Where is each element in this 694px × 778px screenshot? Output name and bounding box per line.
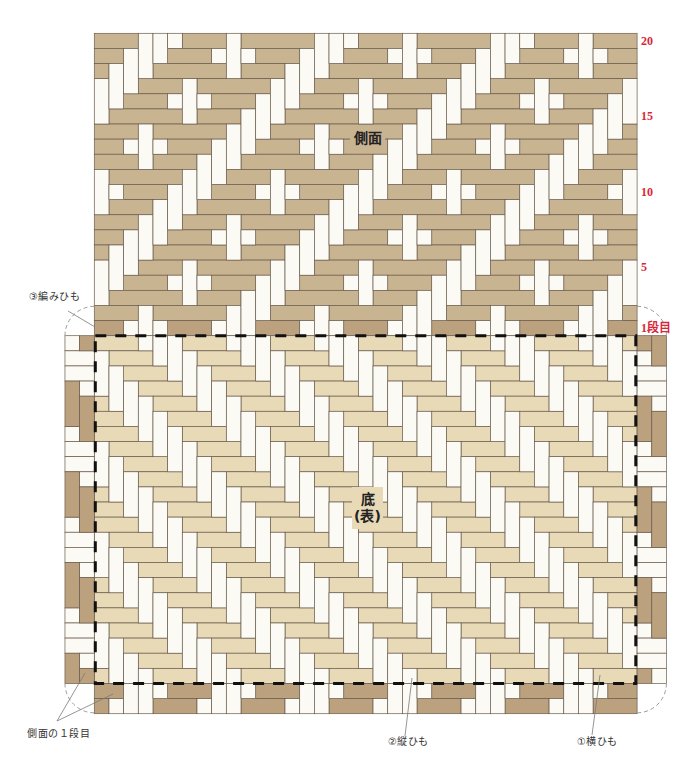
weaving-strip-segment: [476, 185, 520, 200]
left-ext-weaving-strip: [80, 578, 95, 623]
horizontal-strip-segment: [593, 487, 637, 502]
bottom-ext-weaving-strip: [344, 683, 388, 698]
bottom-ext-weaving-strip: [505, 699, 549, 714]
horizontal-strip-segment: [549, 532, 593, 547]
vertical-strip-segment: [505, 502, 520, 547]
standing-strip-segment: [358, 79, 373, 124]
vertical-strip-segment: [549, 547, 564, 592]
vertical-strip-segment: [402, 396, 417, 441]
bottom-ext-weaving-strip: [329, 699, 373, 714]
standing-strip-segment: [490, 124, 505, 169]
weaving-strip-segment: [124, 94, 168, 109]
vertical-strip-segment: [358, 442, 373, 487]
standing-strip-segment: [270, 79, 285, 124]
vertical-strip-segment: [505, 593, 520, 638]
standing-strip-segment: [153, 321, 168, 336]
left-ext-strip-end: [65, 638, 94, 653]
vertical-strip-segment: [593, 593, 608, 638]
standing-strip-segment: [534, 169, 549, 214]
horizontal-strip-segment: [241, 578, 285, 593]
weaving-strip-segment: [138, 79, 182, 94]
standing-strip-segment: [417, 290, 432, 335]
horizontal-strip-segment: [549, 442, 593, 457]
weaving-strip-segment: [608, 139, 637, 154]
weaving-strip-segment: [212, 94, 256, 109]
weaving-strip-segment: [534, 215, 578, 230]
vertical-strip-segment: [226, 668, 241, 683]
horizontal-strip-segment: [490, 653, 534, 668]
vertical-strip-segment: [461, 547, 476, 592]
vertical-strip-segment: [578, 487, 593, 532]
weaving-strip-segment: [256, 139, 300, 154]
horizontal-strip-segment: [490, 472, 534, 487]
weaving-strip-segment: [417, 215, 490, 230]
bottom-ext-strip-end: [329, 683, 344, 698]
standing-strip-segment: [182, 169, 197, 214]
horizontal-strip-segment: [373, 532, 417, 547]
horizontal-strip-segment: [182, 517, 226, 532]
standing-strip-segment: [256, 94, 271, 139]
standing-strip-segment: [138, 124, 153, 169]
standing-strip-segment: [402, 33, 417, 78]
standing-strip-segment: [314, 33, 329, 78]
vertical-strip-segment: [388, 381, 403, 426]
weaving-strip-segment: [153, 124, 226, 139]
vertical-strip-segment: [608, 426, 623, 471]
horizontal-strip-segment: [373, 442, 417, 457]
horizontal-strip-segment: [212, 638, 256, 653]
horizontal-strip-segment: [270, 608, 314, 623]
horizontal-strip-segment: [168, 502, 212, 517]
standing-strip-segment: [344, 94, 359, 109]
horizontal-strip-segment: [270, 336, 314, 351]
horizontal-strip-segment: [109, 623, 153, 638]
standing-strip-segment: [476, 321, 491, 336]
standing-strip-segment: [256, 185, 271, 200]
weaving-strip-segment: [373, 200, 446, 215]
vertical-strip-segment: [446, 532, 461, 577]
fold-arc-bottom-right: [637, 683, 666, 712]
standing-strip-segment: [505, 321, 520, 336]
horizontal-strip-segment: [564, 457, 608, 472]
vertical-strip-segment: [212, 472, 227, 517]
standing-strip-segment: [388, 48, 403, 63]
standing-strip-segment: [344, 275, 359, 290]
right-ext-strip-end: [637, 351, 652, 366]
bottom-ext-weaving-strip: [520, 683, 564, 698]
horizontal-strip-segment: [182, 336, 226, 351]
bottom-ext-strip-end: [212, 683, 227, 713]
left-ext-weaving-strip: [65, 563, 80, 608]
left-ext-strip-end: [80, 472, 95, 487]
weaving-strip-segment: [608, 48, 637, 63]
horizontal-strip-segment: [564, 366, 608, 381]
vertical-strip-segment: [153, 502, 168, 547]
horizontal-strip-segment: [388, 638, 432, 653]
standing-strip-segment: [153, 200, 168, 245]
standing-strip-segment: [549, 94, 564, 109]
standing-strip-segment: [138, 33, 153, 78]
callout-horizontal-strip: ①横ひも: [577, 737, 618, 747]
vertical-strip-segment: [124, 472, 139, 517]
vertical-strip-segment: [373, 638, 388, 683]
weaving-strip-segment: [373, 109, 417, 124]
weaving-strip-segment: [593, 33, 637, 48]
standing-strip-segment: [241, 230, 256, 245]
standing-strip-segment: [593, 48, 608, 63]
standing-strip-segment: [168, 33, 183, 48]
standing-strip-segment: [593, 290, 608, 335]
vertical-strip-segment: [476, 472, 491, 517]
vertical-strip-segment: [476, 381, 491, 426]
horizontal-strip-segment: [329, 668, 373, 683]
standing-strip-segment: [329, 33, 344, 63]
bottom-ext-weaving-strip: [608, 683, 637, 698]
standing-strip-segment: [461, 245, 476, 290]
vertical-strip-segment: [241, 411, 256, 456]
vertical-strip-segment: [520, 336, 535, 381]
vertical-strip-segment: [256, 608, 271, 653]
horizontal-strip-segment: [520, 593, 564, 608]
weaving-strip-segment: [593, 64, 637, 79]
standing-strip-segment: [329, 139, 344, 154]
vertical-strip-segment: [241, 336, 256, 366]
bottom-ext-strip-end: [226, 683, 241, 713]
left-ext-weaving-strip: [65, 472, 80, 517]
weaving-strip-segment: [593, 215, 637, 230]
